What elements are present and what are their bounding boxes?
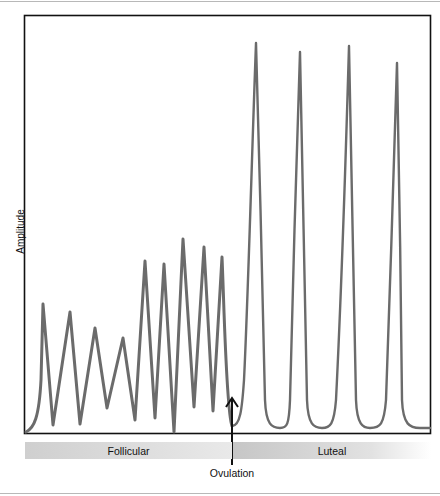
- phase-follicular-label: Follicular: [107, 445, 149, 457]
- pulse-chart: [0, 0, 440, 496]
- y-axis-label: Amplitude: [15, 192, 26, 272]
- phase-follicular-bar: Follicular: [25, 442, 232, 459]
- follicular-pulse-line: [26, 239, 232, 432]
- luteal-pulse-line: [232, 43, 430, 428]
- bottom-divider: [0, 493, 440, 494]
- phase-luteal-label: Luteal: [318, 445, 347, 457]
- ovulation-label: Ovulation: [200, 467, 264, 479]
- phase-luteal-bar: Luteal: [233, 442, 431, 459]
